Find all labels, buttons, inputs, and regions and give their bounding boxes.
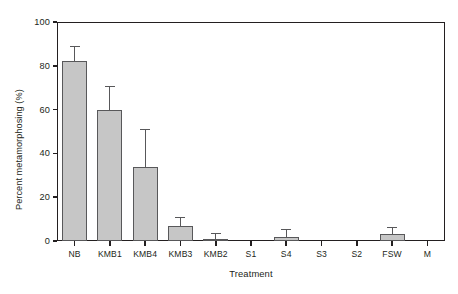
error-bar-cap xyxy=(387,227,397,228)
error-bar-cap xyxy=(70,46,80,47)
y-axis: 020406080100 xyxy=(0,0,57,294)
bar xyxy=(97,110,122,241)
x-tick-mark xyxy=(180,241,182,246)
bar xyxy=(133,167,158,241)
x-tick-label: KMB1 xyxy=(98,249,122,259)
error-bar-cap xyxy=(105,86,115,87)
x-tick-label: S1 xyxy=(246,249,257,259)
error-bar-cap xyxy=(211,233,221,234)
bars-layer xyxy=(57,22,445,241)
x-tick-mark xyxy=(250,241,252,246)
x-tick-mark xyxy=(356,241,358,246)
y-tick-label: 100 xyxy=(34,15,50,29)
x-tick-label: KMB2 xyxy=(204,249,228,259)
x-tick-label: FSW xyxy=(382,249,402,259)
error-bar-stem xyxy=(180,217,181,226)
x-axis-title: Treatment xyxy=(57,268,445,279)
y-tick-label: 80 xyxy=(40,59,50,73)
x-tick-label: KMB4 xyxy=(133,249,157,259)
x-tick-mark xyxy=(427,241,429,246)
bar-chart-figure: 020406080100 Percent metamorphosing (%) … xyxy=(0,0,458,294)
y-tick-label: 40 xyxy=(40,146,50,160)
x-tick-mark xyxy=(144,241,146,246)
x-tick-label: S3 xyxy=(316,249,327,259)
bar xyxy=(62,61,87,241)
error-bar-stem xyxy=(145,129,146,166)
x-tick-mark xyxy=(215,241,217,246)
x-tick-mark xyxy=(74,241,76,246)
x-tick-label: NB xyxy=(69,249,81,259)
x-tick-label: M xyxy=(424,249,431,259)
y-tick-label: 0 xyxy=(45,234,50,248)
error-bar-stem xyxy=(74,46,75,61)
x-tick-mark xyxy=(109,241,111,246)
x-axis: NBKMB1KMB4KMB3KMB2S1S4S3S2FSWM xyxy=(57,241,445,291)
y-tick-label: 60 xyxy=(40,103,50,117)
x-tick-mark xyxy=(391,241,393,246)
bar xyxy=(168,226,193,241)
x-tick-label: S2 xyxy=(351,249,362,259)
x-tick-mark xyxy=(285,241,287,246)
error-bar-cap xyxy=(281,229,291,230)
error-bar-cap xyxy=(140,129,150,130)
x-tick-mark xyxy=(321,241,323,246)
x-tick-label: KMB3 xyxy=(168,249,192,259)
error-bar-stem xyxy=(392,227,393,235)
error-bar-stem xyxy=(109,86,110,110)
x-tick-label: S4 xyxy=(281,249,292,259)
error-bar-stem xyxy=(286,229,287,237)
error-bar-cap xyxy=(175,217,185,218)
